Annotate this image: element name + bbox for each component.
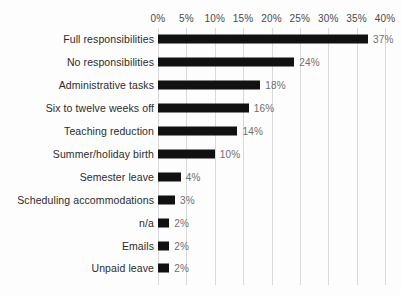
bar-row: Scheduling accommodations3% [0,188,401,211]
value-label: 3% [180,193,195,206]
x-axis-tick-label: 5% [179,12,194,25]
bar-row: n/a2% [0,211,401,234]
bar-row: Full responsibilities37% [0,28,401,51]
category-label: No responsibilities [67,56,154,69]
x-axis-tick-label: 15% [233,12,254,25]
bar [158,127,237,136]
value-label: 2% [174,262,189,275]
x-axis-tick-labels: 0%5%10%15%20%25%30%35%40% [0,12,401,26]
value-label: 24% [299,56,320,69]
bar-row: No responsibilities24% [0,51,401,74]
bar-chart: 0%5%10%15%20%25%30%35%40% Full responsib… [0,0,401,295]
value-label: 2% [174,216,189,229]
x-axis-tick-label: 35% [346,12,367,25]
category-label: Six to twelve weeks off [46,102,154,115]
category-label: n/a [139,216,154,229]
value-label: 2% [174,239,189,252]
bar [158,195,175,204]
x-axis-tick-label: 0% [151,12,166,25]
bar-row: Semester leave4% [0,165,401,188]
bar-row: Six to twelve weeks off16% [0,97,401,120]
bar [158,264,169,273]
category-label: Summer/holiday birth [53,147,154,160]
value-label: 14% [242,125,263,138]
bar [158,149,215,158]
x-axis-tick-label: 40% [375,12,396,25]
bar [158,81,260,90]
value-label: 4% [186,170,201,183]
value-label: 16% [254,102,275,115]
x-axis-tick-label: 25% [290,12,311,25]
category-label: Administrative tasks [59,79,154,92]
value-label: 18% [265,79,286,92]
bar-rows: Full responsibilities37%No responsibilit… [0,28,401,285]
category-label: Emails [122,239,154,252]
value-label: 10% [220,147,241,160]
x-axis-tick-label: 20% [261,12,282,25]
bar [158,172,181,181]
bar [158,218,169,227]
bar [158,104,249,113]
category-label: Semester leave [80,170,154,183]
value-label: 37% [373,33,394,46]
category-label: Full responsibilities [63,33,154,46]
category-label: Scheduling accommodations [17,193,154,206]
bar-row: Teaching reduction14% [0,120,401,143]
bar [158,241,169,250]
category-label: Teaching reduction [64,125,154,138]
bar-row: Unpaid leave2% [0,257,401,280]
bar [158,58,294,67]
bar-row: Summer/holiday birth10% [0,143,401,166]
bar-row: Emails2% [0,234,401,257]
bar-row: Administrative tasks18% [0,74,401,97]
x-axis-tick-label: 10% [204,12,225,25]
category-label: Unpaid leave [92,262,155,275]
bar [158,35,368,44]
x-axis-tick-label: 30% [318,12,339,25]
